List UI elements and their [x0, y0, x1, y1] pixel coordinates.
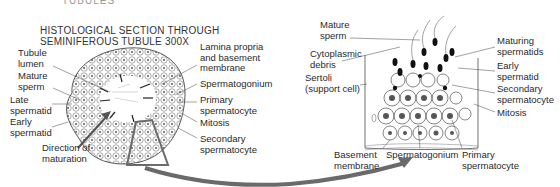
label-mitosis-right: Mitosis [497, 108, 527, 119]
label-secondary-spermatocyte-right: Secondary spermatocyte [497, 84, 554, 105]
label-tubule-lumen: Tubule lumen [18, 48, 47, 69]
label-direction-of-maturation: Direction of maturation [42, 143, 90, 164]
label-basement-membrane: Basement membrane [334, 150, 379, 171]
label-spermatogonium-left: Spermatogonium [200, 79, 272, 90]
label-lamina-propria: Lamina propria and basement membrane [200, 42, 263, 74]
label-secondary-spermatocyte-left: Secondary spermatocyte [200, 134, 257, 155]
label-primary-spermatocyte-left: Primary spermatocyte [200, 95, 257, 116]
label-sertoli-cell: Sertoli (support cell) [305, 73, 360, 94]
label-primary-spermatocyte-right: Primary spermatocyte [462, 150, 519, 171]
label-late-spermatid: Late spermatid [10, 95, 52, 116]
epithelium-detail [365, 16, 478, 150]
label-maturing-spermatids: Maturing spermatids [497, 36, 543, 57]
label-mitosis-left: Mitosis [200, 118, 230, 129]
label-spermatogonium-right: Spermatogonium [386, 150, 458, 161]
label-cytoplasmic-debris: Cytoplasmic debris [310, 49, 362, 70]
label-mature-sperm-right: Mature sperm [320, 20, 350, 41]
label-early-spermatid-left: Early spermatid [10, 117, 52, 138]
label-mature-sperm-left: Mature sperm [18, 71, 48, 92]
label-early-spermatid-right: Early spermatid [497, 61, 539, 82]
